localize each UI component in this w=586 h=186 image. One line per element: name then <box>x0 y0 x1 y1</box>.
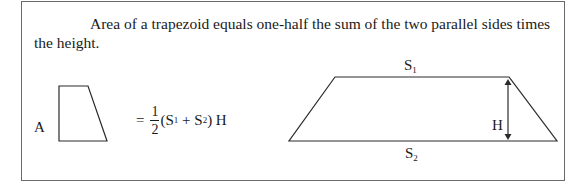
trapezoid-diagrams <box>0 0 586 186</box>
top-side-subscript: 1 <box>412 65 417 75</box>
large-trapezoid-shape <box>289 77 557 141</box>
one-half-fraction: 1 2 <box>150 104 159 137</box>
fraction-bar <box>150 120 159 121</box>
height-label: H <box>492 118 503 133</box>
bottom-side-label: S2 <box>405 146 418 166</box>
fraction-numerator: 1 <box>151 104 158 119</box>
small-trapezoid-shape <box>59 86 107 141</box>
area-symbol-a: A <box>34 120 45 135</box>
fraction-denominator: 2 <box>151 122 158 137</box>
formula-close-h: ) H <box>207 112 227 129</box>
equals-sign: = <box>136 112 144 129</box>
area-formula: = 1 2 (S1 + S2) H <box>136 100 227 140</box>
formula-s1: (S <box>160 112 173 129</box>
height-arrow-down-head <box>505 134 512 140</box>
bottom-side-subscript: 2 <box>413 153 418 163</box>
formula-plus-s2: + S <box>178 112 202 129</box>
top-side-label: S1 <box>404 58 417 78</box>
